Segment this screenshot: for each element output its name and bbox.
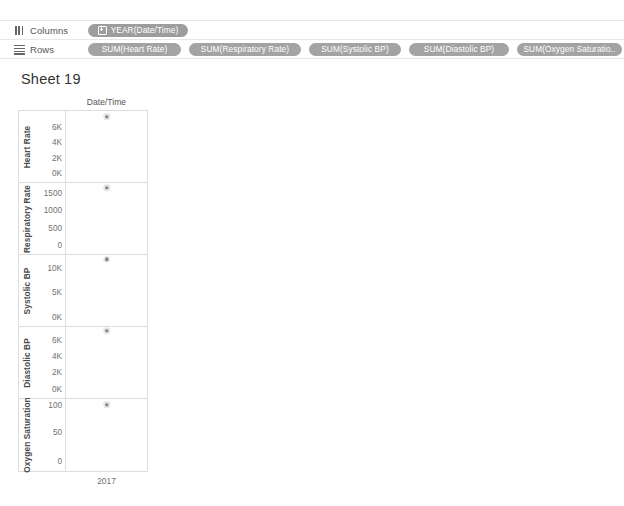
row-title-heart-rate: Heart Rate — [19, 111, 35, 182]
pill-sum-diastolic-bp[interactable]: SUM(Diastolic BP) — [409, 43, 509, 56]
calendar-plus-icon — [98, 26, 107, 35]
data-mark[interactable] — [105, 115, 108, 118]
shelf-area: Columns YEAR(Date/Time) Rows SUM(Heart R… — [0, 20, 624, 59]
rows-shelf[interactable]: Rows SUM(Heart Rate) SUM(Respiratory Rat… — [0, 40, 624, 59]
y-tick: 0K — [52, 313, 62, 322]
pill-sum-respiratory-rate-label: SUM(Respiratory Rate) — [201, 44, 289, 54]
row-title-systolic-bp: Systolic BP — [19, 255, 35, 326]
column-header-date-time: Date/Time — [65, 97, 148, 110]
pill-sum-oxygen-saturation[interactable]: SUM(Oxygen Saturatio.. — [517, 43, 622, 56]
y-tick: 2K — [52, 368, 62, 377]
row-title-respiratory-rate-label: Respiratory Rate — [22, 185, 32, 253]
y-tick: 10K — [47, 263, 62, 272]
y-tick: 6K — [52, 335, 62, 344]
panel-heart-rate: Heart Rate 6K 4K 2K 0K — [19, 111, 147, 183]
panel-stack: Heart Rate 6K 4K 2K 0K Respiratory Rate — [18, 110, 148, 472]
pill-sum-systolic-bp[interactable]: SUM(Systolic BP) — [309, 43, 401, 56]
plot-area-systolic-bp[interactable] — [66, 255, 147, 326]
y-tick: 2K — [52, 153, 62, 162]
pill-sum-diastolic-bp-label: SUM(Diastolic BP) — [424, 44, 494, 54]
plot-area-diastolic-bp[interactable] — [66, 327, 147, 398]
data-mark[interactable] — [105, 258, 108, 261]
y-tick: 5K — [52, 287, 62, 296]
y-axis-oxygen-saturation: 100 50 0 — [35, 399, 66, 471]
pill-sum-heart-rate[interactable]: SUM(Heart Rate) — [88, 43, 181, 56]
row-title-heart-rate-label: Heart Rate — [22, 125, 32, 168]
columns-shelf-label: Columns — [14, 25, 88, 36]
panel-systolic-bp: Systolic BP 10K 5K 0K — [19, 255, 147, 327]
pill-year-date-time[interactable]: YEAR(Date/Time) — [88, 24, 188, 37]
row-title-oxygen-saturation: Oxygen Saturation — [19, 399, 35, 471]
y-tick: 500 — [48, 223, 62, 232]
y-tick: 1000 — [44, 205, 62, 214]
plot-area-oxygen-saturation[interactable] — [66, 399, 147, 471]
rows-shelf-label: Rows — [14, 44, 88, 55]
panel-respiratory-rate: Respiratory Rate 1500 1000 500 0 — [19, 183, 147, 255]
x-axis-label: 2017 — [65, 472, 148, 486]
columns-shelf[interactable]: Columns YEAR(Date/Time) — [0, 21, 624, 40]
row-title-respiratory-rate: Respiratory Rate — [19, 183, 35, 254]
y-tick: 4K — [52, 352, 62, 361]
rows-pill-track[interactable]: SUM(Heart Rate) SUM(Respiratory Rate) SU… — [88, 43, 624, 56]
data-mark[interactable] — [105, 329, 108, 332]
visualization: Date/Time Heart Rate 6K 4K 2K 0K — [18, 97, 178, 486]
y-tick: 0 — [57, 241, 62, 250]
y-axis-respiratory-rate: 1500 1000 500 0 — [35, 183, 66, 254]
worksheet: Sheet 19 Date/Time Heart Rate 6K 4K 2K 0… — [0, 59, 624, 486]
y-tick: 0 — [57, 456, 62, 465]
plot-area-heart-rate[interactable] — [66, 111, 147, 182]
row-title-systolic-bp-label: Systolic BP — [22, 267, 32, 314]
columns-label-text: Columns — [30, 25, 68, 36]
top-blank-strip — [0, 0, 624, 20]
row-title-diastolic-bp-label: Diastolic BP — [22, 338, 32, 388]
row-title-oxygen-saturation-label: Oxygen Saturation — [22, 397, 32, 472]
pill-sum-heart-rate-label: SUM(Heart Rate) — [102, 44, 168, 54]
y-tick: 0K — [52, 169, 62, 178]
pill-year-date-time-label: YEAR(Date/Time) — [111, 25, 179, 35]
y-axis-systolic-bp: 10K 5K 0K — [35, 255, 66, 326]
plot-area-respiratory-rate[interactable] — [66, 183, 147, 254]
panel-oxygen-saturation: Oxygen Saturation 100 50 0 — [19, 399, 147, 471]
panel-diastolic-bp: Diastolic BP 6K 4K 2K 0K — [19, 327, 147, 399]
data-mark[interactable] — [105, 403, 108, 406]
page-title: Sheet 19 — [21, 71, 624, 87]
pill-sum-systolic-bp-label: SUM(Systolic BP) — [321, 44, 389, 54]
y-tick: 1500 — [44, 188, 62, 197]
rows-icon — [14, 44, 25, 55]
pill-sum-oxygen-saturation-label: SUM(Oxygen Saturatio.. — [523, 44, 615, 54]
pill-sum-respiratory-rate[interactable]: SUM(Respiratory Rate) — [189, 43, 301, 56]
row-title-diastolic-bp: Diastolic BP — [19, 327, 35, 398]
y-tick: 0K — [52, 385, 62, 394]
y-tick: 4K — [52, 138, 62, 147]
y-tick: 100 — [48, 401, 62, 410]
data-mark[interactable] — [105, 186, 108, 189]
columns-icon — [14, 25, 25, 36]
rows-label-text: Rows — [30, 44, 54, 55]
y-axis-heart-rate: 6K 4K 2K 0K — [35, 111, 66, 182]
y-tick: 50 — [53, 428, 62, 437]
y-axis-diastolic-bp: 6K 4K 2K 0K — [35, 327, 66, 398]
columns-pill-track[interactable]: YEAR(Date/Time) — [88, 24, 624, 37]
y-tick: 6K — [52, 122, 62, 131]
